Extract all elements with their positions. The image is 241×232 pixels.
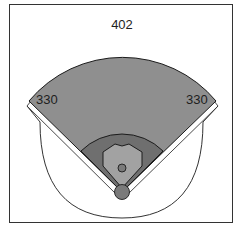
center-field-distance: 402	[111, 17, 133, 32]
pitchers-mound	[118, 164, 126, 172]
baseball-field-diagram: 402 330 330	[0, 0, 241, 232]
right-field-distance: 330	[186, 92, 208, 107]
left-field-distance: 330	[36, 92, 58, 107]
home-plate-area	[115, 185, 130, 200]
